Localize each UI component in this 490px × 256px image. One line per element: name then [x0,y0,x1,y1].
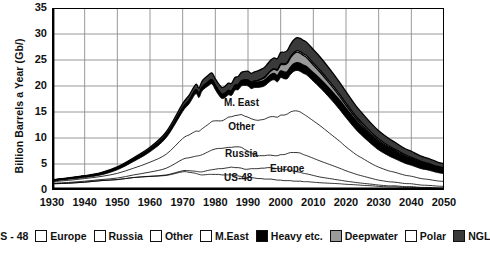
legend-item-ngl[interactable]: NGL [453,230,490,242]
legend-swatch-icon [35,230,47,242]
legend-label: Deepwater [345,230,398,242]
annotation-other: Other [228,121,255,132]
legend-item-m-east[interactable]: M.East [200,230,249,242]
y-tick-20: 20 [21,79,47,91]
legend-item-europe[interactable]: Europe [35,230,86,242]
legend-label: US - 48 [0,230,28,242]
annotation-m-east: M. East [224,97,260,108]
legend-label: Other [165,230,193,242]
legend-swatch-icon [256,230,268,242]
legend-swatch-icon [200,230,212,242]
annotation-europe: Europe [270,163,305,174]
annotation-us-48: US-48 [224,172,253,183]
y-tick-35: 35 [21,1,47,13]
x-tick-2050: 2050 [421,196,467,208]
legend-label: Europe [50,230,86,242]
legend-label: M.East [215,230,249,242]
legend-swatch-icon [330,230,342,242]
legend-swatch-icon [150,230,162,242]
y-tick-15: 15 [21,105,47,117]
plot-area: M. EastOtherRussiaEuropeUS-48 [52,8,444,190]
legend-item-deepwater[interactable]: Deepwater [330,230,398,242]
stacked-area-chart: M. EastOtherRussiaEuropeUS-48 [52,8,444,190]
y-tick-5: 5 [21,157,47,169]
annotation-russia: Russia [225,148,258,159]
chart-legend: US - 48EuropeRussiaOtherM.EastHeavy etc.… [8,224,460,248]
legend-label: Heavy etc. [271,230,323,242]
legend-label: NGL [468,230,490,242]
legend-item-russia[interactable]: Russia [94,230,143,242]
y-tick-30: 30 [21,27,47,39]
y-tick-0: 0 [21,183,47,195]
y-tick-10: 10 [21,131,47,143]
legend-swatch-icon [405,230,417,242]
legend-label: Russia [109,230,143,242]
legend-swatch-icon [94,230,106,242]
y-tick-25: 25 [21,53,47,65]
legend-label: Polar [420,230,446,242]
legend-item-heavy-etc-[interactable]: Heavy etc. [256,230,323,242]
legend-item-polar[interactable]: Polar [405,230,446,242]
legend-item-other[interactable]: Other [150,230,193,242]
legend-item-us-48[interactable]: US - 48 [0,230,28,242]
legend-swatch-icon [453,230,465,242]
